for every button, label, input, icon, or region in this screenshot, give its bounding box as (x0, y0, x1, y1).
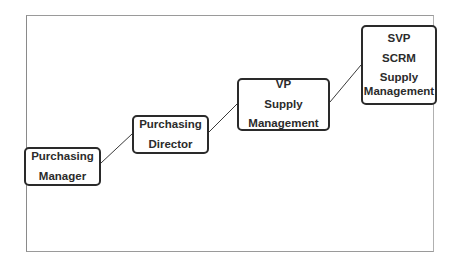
edge-director-to-vp (209, 104, 237, 132)
node-purchasing-manager: Purchasing Manager (24, 147, 101, 186)
node-label-line: VP (276, 79, 291, 91)
node-purchasing-director: Purchasing Director (132, 115, 209, 154)
node-vp-supply-management: VP Supply Management (237, 78, 330, 131)
node-label-line: Management (248, 118, 318, 130)
node-label-line: Director (148, 139, 192, 151)
node-label-line: Supply (264, 99, 302, 111)
node-label-line: SVP (387, 33, 410, 45)
edge-vp-to-svp (330, 65, 361, 102)
node-label-line: Management (364, 86, 434, 98)
node-label-line: Manager (39, 171, 86, 183)
node-label-line: Supply (380, 72, 418, 84)
node-label-line: Purchasing (139, 119, 202, 131)
node-label-line: Purchasing (31, 151, 94, 163)
node-label-line: SCRM (382, 53, 416, 65)
edge-manager-to-director (101, 134, 132, 163)
node-svp-scrm-supply-management: SVP SCRM Supply Management (361, 25, 437, 105)
